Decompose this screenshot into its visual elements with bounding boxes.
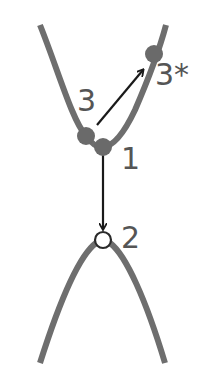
arrow-3-to-3star xyxy=(97,70,143,125)
lower-curve xyxy=(40,243,165,363)
label-3star: 3* xyxy=(155,57,189,92)
label-1: 1 xyxy=(121,141,140,176)
point-1 xyxy=(94,138,112,156)
point-2 xyxy=(95,232,111,248)
diagram-canvas: 3 1 3* 2 xyxy=(0,0,200,379)
label-2: 2 xyxy=(121,220,140,255)
point-3 xyxy=(77,127,95,145)
label-3: 3 xyxy=(77,83,96,118)
upper-curve xyxy=(40,25,166,147)
